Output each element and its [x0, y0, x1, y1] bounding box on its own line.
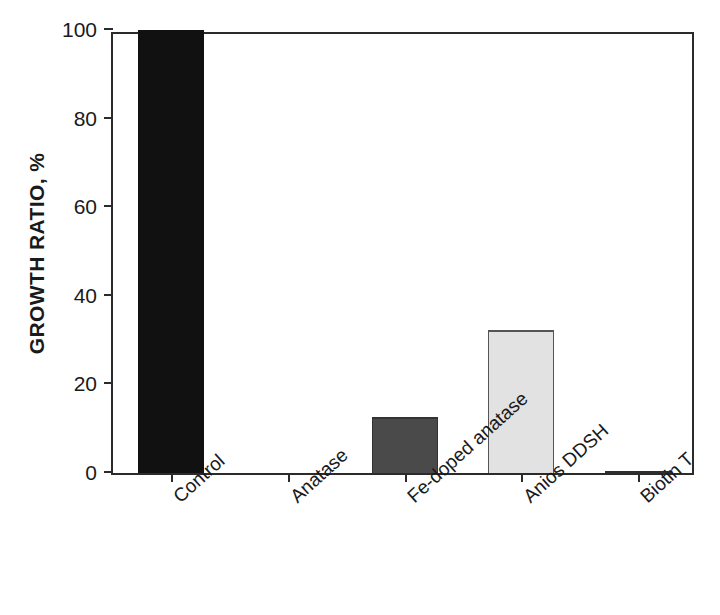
- x-axis-label: Anatase: [286, 491, 301, 507]
- bars-layer: [113, 34, 692, 473]
- x-axis-tick: [288, 473, 290, 482]
- y-axis-tick: 0: [104, 471, 113, 473]
- x-axis-label: Fe-doped anatase: [403, 491, 418, 507]
- y-axis-tick: 100: [104, 28, 113, 30]
- bar: [138, 30, 204, 473]
- plot-area: 020406080100: [111, 32, 694, 475]
- y-axis-tick-label: 20: [74, 372, 97, 396]
- y-axis-title: GROWTH RATIO, %: [14, 32, 60, 475]
- y-axis-tick: 20: [104, 382, 113, 384]
- x-axis-tick: [521, 473, 523, 482]
- y-axis-tick: 40: [104, 294, 113, 296]
- bar-chart-figure: GROWTH RATIO, % 020406080100 ControlAnat…: [0, 0, 720, 615]
- y-axis-tick-label: 40: [74, 284, 97, 308]
- y-axis-tick-label: 100: [62, 18, 97, 42]
- x-axis-labels: ControlAnataseFe-doped anataseAnios DDSH…: [111, 487, 694, 615]
- x-axis-label: Anios DDSH: [519, 491, 534, 507]
- y-axis-tick-label: 80: [74, 107, 97, 131]
- bar: [372, 417, 438, 473]
- y-axis-tick: 80: [104, 117, 113, 119]
- y-axis-tick-label: 60: [74, 195, 97, 219]
- x-axis-tick: [405, 473, 407, 482]
- x-axis-tick: [638, 473, 640, 482]
- y-axis-tick: 60: [104, 205, 113, 207]
- y-axis-tick-label: 0: [85, 461, 97, 485]
- x-axis-label: Control: [169, 491, 184, 507]
- x-axis-label: Biotin T: [636, 491, 651, 507]
- x-axis-tick: [171, 473, 173, 482]
